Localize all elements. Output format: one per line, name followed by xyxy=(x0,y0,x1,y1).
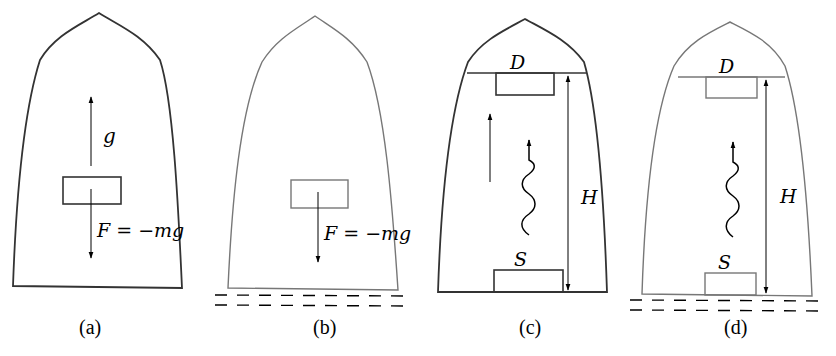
caption-c: (c) xyxy=(519,316,541,339)
label-force-b: F = −mg xyxy=(323,222,411,244)
ground-hatch-d xyxy=(630,300,826,311)
source-box-c xyxy=(494,270,563,292)
caption-b: (b) xyxy=(313,316,336,339)
label-height-c: H xyxy=(580,186,598,208)
rocket-outline-a xyxy=(13,13,182,288)
mass-box-b xyxy=(291,180,348,208)
label-g-a: g xyxy=(103,124,116,148)
label-detector-c: D xyxy=(509,51,525,73)
mass-box-a xyxy=(63,177,121,204)
photon-wave-c xyxy=(522,140,535,235)
source-box-d xyxy=(705,273,756,295)
panel-a xyxy=(13,13,182,288)
caption-d: (d) xyxy=(724,316,747,339)
ground-hatch-b xyxy=(215,295,410,306)
figure-canvas: g F = −mg (a) F = −mg (b) D S H (c) D S … xyxy=(0,0,836,356)
panel-b xyxy=(215,16,410,306)
photon-wave-d xyxy=(726,142,739,237)
label-detector-d: D xyxy=(718,55,734,77)
label-height-d: H xyxy=(779,185,797,207)
label-source-d: S xyxy=(718,251,731,273)
caption-a: (a) xyxy=(79,316,101,339)
label-force-a: F = −mg xyxy=(96,219,184,241)
detector-box-c xyxy=(496,73,554,95)
detector-box-d xyxy=(706,77,757,98)
rocket-outline-b xyxy=(228,16,398,290)
label-source-c: S xyxy=(514,248,527,270)
